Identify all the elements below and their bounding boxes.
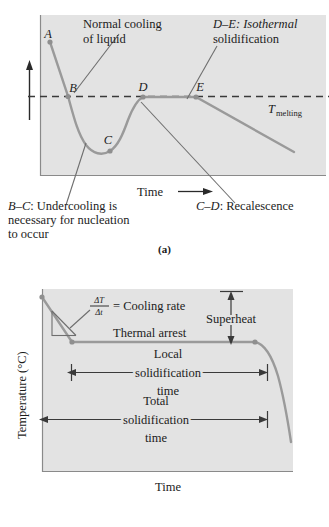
data-point-d: [140, 94, 145, 99]
local-solidification-line2: solidification: [135, 366, 202, 380]
x-axis-label-a: Time: [137, 185, 213, 199]
cooling-rate-numerator: ΔT: [93, 295, 105, 305]
annotation-normal-cooling-line2: of liquid: [83, 32, 126, 46]
thermal-arrest-label: Thermal arrest: [113, 326, 187, 340]
figure-a: A B C D E Normal cooling of liquid D–E: …: [0, 0, 329, 264]
annotation-isothermal-line1: D–E: Isothermal: [212, 17, 298, 31]
total-solidification-line1: Total: [143, 394, 169, 408]
y-axis-arrow-a: [26, 60, 33, 120]
annotation-undercooling-line2: necessary for nucleation: [8, 213, 130, 227]
annotation-undercooling-line1: B–C: Undercooling is: [8, 199, 117, 213]
point-label-c: C: [104, 133, 113, 147]
annotation-undercooling-line3: to occur: [8, 227, 49, 241]
annotation-isothermal-line2: solidification: [213, 32, 280, 46]
data-point-e: [193, 94, 198, 99]
total-solidification-line2: solidification: [123, 413, 190, 427]
cooling-rate-equation: = Cooling rate: [113, 299, 186, 313]
point-label-d: D: [137, 80, 147, 94]
data-point-b-start: [39, 294, 44, 299]
svg-text:melting: melting: [276, 108, 303, 118]
data-point-arrest-end: [252, 339, 257, 344]
annotation-normal-cooling-line1: Normal cooling: [83, 17, 163, 31]
superheat-label: Superheat: [206, 312, 257, 326]
annotation-recalescence: C–D: Recalescence: [196, 199, 294, 213]
figure-a-caption: (a): [0, 243, 329, 255]
local-solidification-line1: Local: [154, 347, 183, 361]
point-label-a: A: [43, 27, 52, 41]
point-label-b: B: [69, 81, 77, 95]
figure-b: Temperature (°C) ΔT Δt = Cooling rate Th…: [0, 264, 329, 527]
figure-a-diagram: A B C D E Normal cooling of liquid D–E: …: [0, 0, 329, 243]
data-point-arrest-start: [69, 339, 74, 344]
x-axis-label-text-a: Time: [137, 185, 163, 199]
figure-b-diagram: Temperature (°C) ΔT Δt = Cooling rate Th…: [0, 264, 329, 527]
total-solidification-line3: time: [145, 431, 168, 445]
y-axis-label-b: Temperature (°C): [15, 351, 29, 439]
cooling-rate-denominator: Δt: [94, 307, 103, 317]
data-point-c: [107, 148, 112, 153]
x-axis-label-b: Time: [155, 480, 181, 494]
svg-text:T: T: [268, 102, 276, 116]
